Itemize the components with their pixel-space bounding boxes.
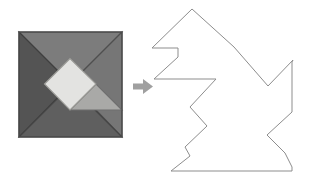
figure-canvas xyxy=(0,0,312,177)
silhouette-svg xyxy=(0,0,312,177)
assembled-silhouette-outline xyxy=(152,9,293,171)
silhouette-group xyxy=(0,0,312,177)
